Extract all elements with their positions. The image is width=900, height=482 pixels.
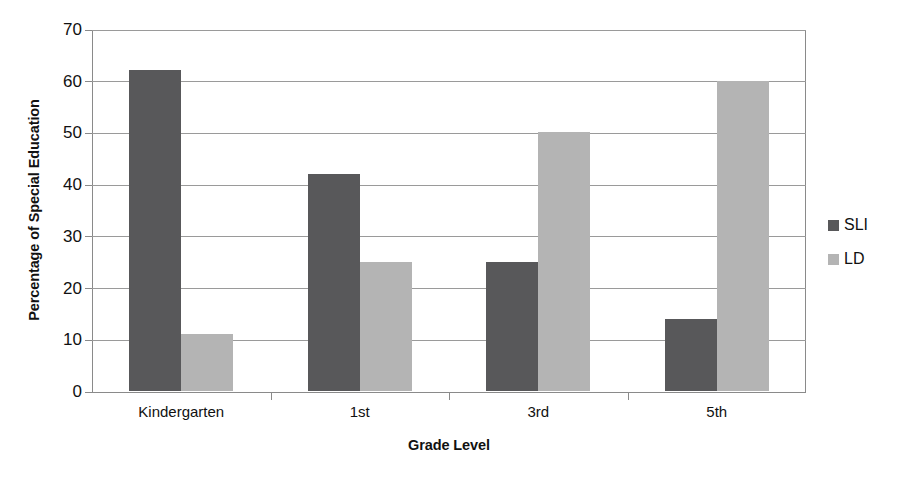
bar-sli-5th xyxy=(665,319,717,391)
y-axis-tick xyxy=(85,340,92,341)
bar-chart-figure: Percentage of Special Education 01020304… xyxy=(0,0,900,482)
y-axis-tick-label: 10 xyxy=(63,330,82,350)
y-axis-tick-label: 60 xyxy=(63,72,82,92)
y-axis-tick-label: 0 xyxy=(73,382,82,402)
y-axis-tick xyxy=(85,133,92,134)
y-axis-tick-label: 30 xyxy=(63,227,82,247)
bar-group xyxy=(308,30,412,391)
x-axis-category-label: Kindergarten xyxy=(138,403,224,420)
legend-item-ld[interactable]: LD xyxy=(828,242,898,276)
x-axis-category-label: 3rd xyxy=(527,403,549,420)
y-axis-tick xyxy=(85,30,92,31)
legend-swatch-sli xyxy=(828,220,839,231)
y-axis-line xyxy=(92,30,93,392)
bar-ld-3rd xyxy=(538,132,590,391)
x-axis-category-label: 1st xyxy=(350,403,370,420)
legend: SLILD xyxy=(828,208,898,276)
y-axis-tick-label: 70 xyxy=(63,20,82,40)
y-axis-tick xyxy=(85,81,92,82)
bar-ld-5th xyxy=(717,81,769,391)
y-axis-tick xyxy=(85,392,92,393)
bar-sli-1st xyxy=(308,174,360,391)
y-axis-title: Percentage of Special Education xyxy=(22,40,46,380)
x-axis-title: Grade Level xyxy=(92,437,806,453)
bar-group xyxy=(486,30,590,391)
bar-group xyxy=(665,30,769,391)
x-axis-separator-tick xyxy=(271,392,272,400)
legend-label: SLI xyxy=(844,216,868,234)
x-axis-separator-tick xyxy=(628,392,629,400)
bar-sli-3rd xyxy=(486,262,538,391)
y-axis-tick xyxy=(85,185,92,186)
y-axis-tick-label: 50 xyxy=(63,123,82,143)
plot-right-edge xyxy=(805,30,806,392)
y-axis-tick xyxy=(85,236,92,237)
y-axis-tick-label: 20 xyxy=(63,279,82,299)
bar-sli-kindergarten xyxy=(129,70,181,391)
plot-area: 010203040506070 xyxy=(92,30,806,392)
y-axis-tick-label: 40 xyxy=(63,175,82,195)
bar-group xyxy=(129,30,233,391)
x-axis-category-label: 5th xyxy=(706,403,727,420)
bar-ld-kindergarten xyxy=(181,334,233,391)
y-axis-tick xyxy=(85,288,92,289)
x-axis-separator-tick xyxy=(449,392,450,400)
legend-swatch-ld xyxy=(828,254,839,265)
bar-ld-1st xyxy=(360,262,412,391)
legend-label: LD xyxy=(844,250,864,268)
legend-item-sli[interactable]: SLI xyxy=(828,208,898,242)
